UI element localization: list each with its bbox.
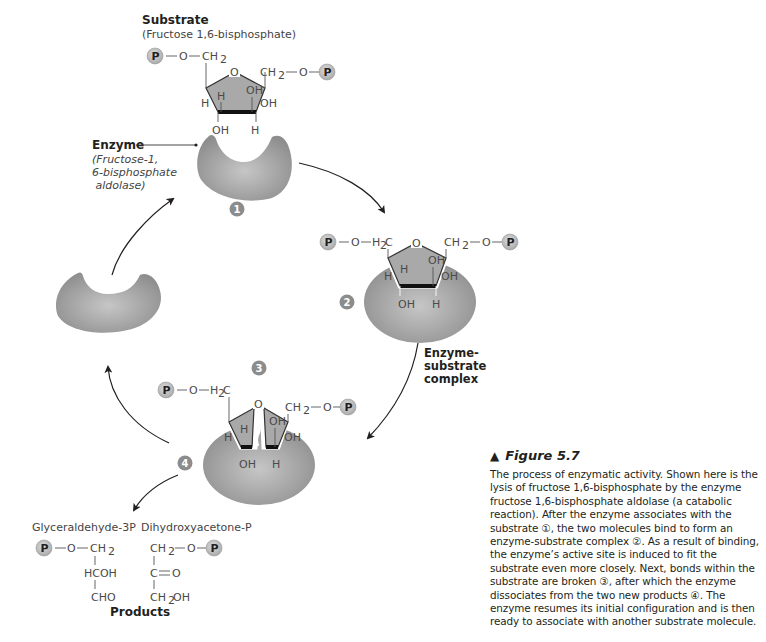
svg-text:3: 3	[256, 363, 263, 374]
svg-text:1: 1	[234, 204, 241, 215]
svg-text:2: 2	[220, 53, 227, 66]
enzyme-shape-free	[56, 272, 161, 332]
svg-text:OH: OH	[441, 270, 458, 283]
svg-text:H: H	[224, 431, 232, 444]
figure-number: Figure 5.7	[505, 448, 580, 463]
svg-text:P: P	[163, 384, 171, 397]
svg-text:O: O	[412, 237, 421, 250]
svg-text:2: 2	[462, 239, 469, 252]
complex-label-line2: substrate	[424, 359, 487, 373]
svg-text:(Fructose-1,: (Fructose-1,	[92, 153, 158, 166]
svg-text:OH: OH	[246, 84, 263, 97]
svg-text:OH: OH	[398, 298, 415, 311]
svg-text:CH: CH	[202, 50, 218, 63]
figure-caption-body: The process of enzymatic activity. Shown…	[490, 468, 766, 629]
svg-text:4: 4	[182, 458, 189, 469]
svg-text:CH: CH	[150, 591, 166, 604]
figure-caption: ▲Figure 5.7 The process of enzymatic act…	[490, 448, 766, 629]
svg-text:H: H	[432, 298, 440, 311]
svg-text:OH: OH	[260, 97, 277, 110]
svg-text:P: P	[325, 236, 333, 249]
svg-text:2: 2	[168, 545, 175, 558]
substrate-molecule-free: P O CH 2 O CH 2 O P H H OH OH OH H	[147, 48, 335, 137]
arrow-step1-to-step2	[299, 163, 384, 212]
step-badge-2: 2	[340, 295, 355, 310]
svg-text:OH: OH	[269, 415, 286, 428]
arrow-free-enzyme-to-step1	[112, 199, 173, 275]
product-glyceraldehyde-name: Glyceraldehyde-3P	[32, 521, 136, 534]
svg-text:H: H	[272, 458, 280, 471]
svg-text:C: C	[223, 384, 231, 397]
svg-text:HCOH: HCOH	[84, 567, 117, 580]
svg-text:H: H	[217, 90, 225, 103]
svg-text:O: O	[67, 542, 76, 555]
svg-text:O: O	[172, 567, 181, 580]
svg-text:O: O	[189, 384, 198, 397]
figure-title: ▲Figure 5.7	[490, 448, 766, 463]
product-dihydroxyacetone-p: CH 2 O P C O CH 2 OH	[150, 540, 222, 607]
arrow-step2-to-step3	[368, 343, 418, 438]
svg-text:O: O	[351, 236, 360, 249]
svg-text:OH: OH	[284, 431, 301, 444]
svg-text:O: O	[187, 542, 196, 555]
svg-text:CHO: CHO	[91, 591, 116, 604]
svg-text:O: O	[299, 66, 308, 79]
products-label: Products	[110, 605, 170, 619]
svg-text:H: H	[201, 97, 209, 110]
enzyme-shape-1	[197, 135, 292, 201]
svg-text:CH: CH	[150, 542, 166, 555]
svg-text:2: 2	[303, 404, 310, 417]
svg-text:2: 2	[108, 545, 115, 558]
svg-text:P: P	[41, 542, 49, 555]
svg-text:aldolase): aldolase)	[92, 179, 146, 192]
svg-text:P: P	[345, 401, 353, 414]
svg-text:CH: CH	[260, 66, 276, 79]
svg-text:P: P	[324, 66, 332, 79]
svg-text:CH: CH	[285, 401, 301, 414]
svg-text:C: C	[150, 567, 158, 580]
svg-text:O: O	[323, 401, 332, 414]
svg-text:H: H	[384, 270, 392, 283]
svg-text:H: H	[251, 124, 259, 137]
svg-text:H: H	[240, 423, 248, 436]
step-badge-4: 4	[178, 456, 193, 471]
svg-text:CH: CH	[90, 542, 106, 555]
svg-text:OH: OH	[173, 591, 190, 604]
svg-text:C: C	[385, 236, 393, 249]
svg-text:6-bisphosphate: 6-bisphosphate	[92, 166, 177, 179]
arrow-step3-to-free-enzyme	[108, 367, 169, 443]
step-badge-3: 3	[252, 361, 267, 376]
product-glyceraldehyde-3p: P O CH 2 HCOH CHO	[36, 540, 117, 604]
arrow-step4-to-products	[134, 475, 178, 510]
svg-text:2: 2	[278, 69, 285, 82]
svg-text:CH: CH	[444, 236, 460, 249]
substrate-title: Substrate	[142, 13, 209, 27]
svg-text:OH: OH	[212, 124, 229, 137]
svg-text:OH: OH	[428, 254, 445, 267]
svg-text:P: P	[152, 50, 160, 63]
svg-text:OH: OH	[239, 458, 256, 471]
svg-text:H: H	[400, 263, 408, 276]
step-badge-1: 1	[230, 202, 245, 217]
svg-text:2: 2	[344, 297, 351, 308]
svg-text:O: O	[254, 398, 263, 411]
complex-label-line3: complex	[424, 372, 479, 386]
triangle-marker-icon: ▲	[490, 449, 499, 463]
complex-label-line1: Enzyme-	[424, 346, 479, 360]
svg-text:P: P	[507, 236, 515, 249]
svg-text:P: P	[211, 542, 219, 555]
svg-text:O: O	[230, 66, 239, 79]
substrate-subtitle: (Fructose 1,6-bisphosphate)	[142, 28, 296, 41]
product-dihydroxyacetone-name: Dihydroxyacetone-P	[141, 521, 252, 534]
svg-text:O: O	[179, 50, 188, 63]
svg-text:O: O	[482, 236, 491, 249]
